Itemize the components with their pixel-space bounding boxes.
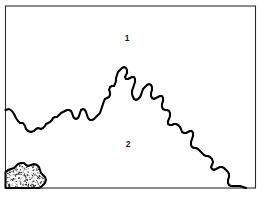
map-figure-canvas: 1 2 xyxy=(0,0,264,199)
figure-root: 1 2 xyxy=(0,0,264,199)
region-label-upper: 1 xyxy=(125,33,130,43)
region-label-lower: 2 xyxy=(126,139,131,149)
